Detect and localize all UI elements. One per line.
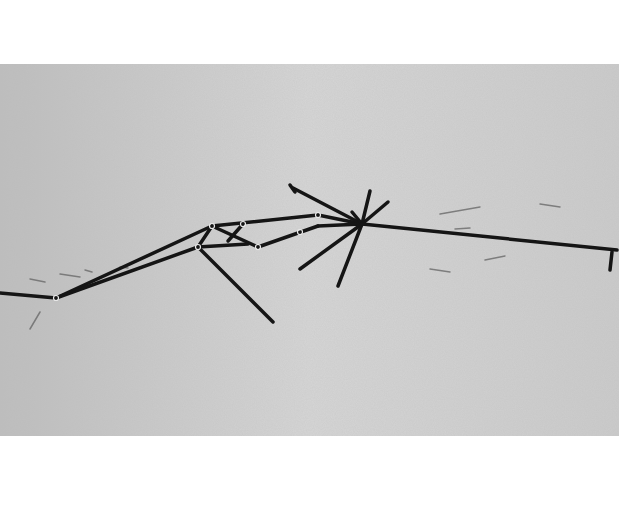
paper-grain (0, 64, 619, 436)
faint-mark (455, 228, 470, 229)
photograph (0, 64, 619, 436)
stick-segment (318, 224, 362, 226)
stick-segment (610, 252, 612, 270)
stick-drawing (0, 64, 619, 436)
